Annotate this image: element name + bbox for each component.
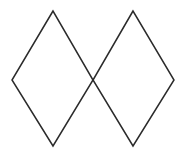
figure-canvas bbox=[0, 0, 183, 161]
background-rect bbox=[0, 0, 183, 161]
rhombi-diagram bbox=[0, 0, 183, 161]
